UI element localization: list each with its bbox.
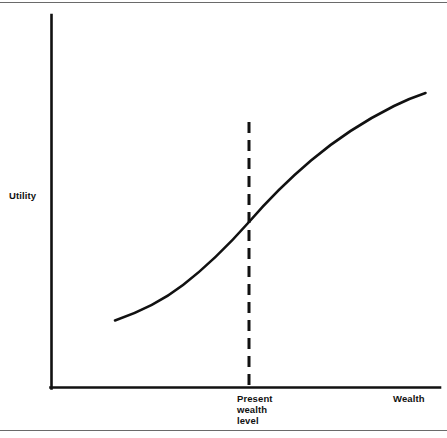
utility-of-wealth-figure: Utility Wealth Present wealth level: [0, 0, 447, 438]
present-wealth-level-label: Present wealth level: [237, 393, 273, 426]
y-axis-label: Utility: [9, 190, 36, 201]
x-axis-label: Wealth: [393, 393, 425, 404]
utility-curve: [115, 93, 426, 320]
chart-plot-area: [0, 0, 447, 438]
